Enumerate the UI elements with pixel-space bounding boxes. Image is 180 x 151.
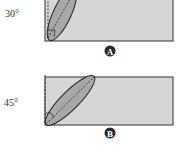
panel-a: 30° A: [5, 0, 173, 57]
panel-b-badge-label: B: [107, 129, 113, 139]
panel-a-angle-label: 30°: [5, 8, 19, 19]
panel-b-angle-label: 45°: [4, 97, 18, 108]
diagram: 30° A 45° B: [0, 0, 180, 151]
panel-a-badge-label: A: [107, 47, 114, 57]
panel-b: 45° B: [4, 70, 173, 138]
